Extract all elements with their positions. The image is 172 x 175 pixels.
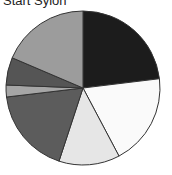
pie-chart — [0, 0, 172, 175]
pie-slice-1 — [83, 11, 159, 88]
